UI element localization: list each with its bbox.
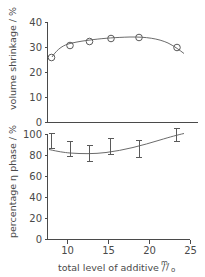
top-data-point [48, 54, 55, 61]
top-y-axis-title: volume shrinkage / % [7, 7, 18, 110]
bottom-x-axis-title-sub: o [171, 266, 175, 274]
bottom-x-axis-title-main: total level of additive / [58, 262, 166, 273]
top-trend-curve [52, 37, 184, 57]
bottom-y-axis-title: percentage η phase / % [7, 125, 18, 238]
bottom-ytick-label-40: 40 [29, 192, 42, 203]
bottom-xtick-label-10: 10 [61, 245, 74, 256]
top-ytick-label-10: 10 [29, 92, 42, 103]
top-data-point [174, 44, 181, 51]
figure-panel: 40 30 20 10 0 volume shrinkage / % [0, 0, 205, 277]
bottom-error-bars [49, 128, 180, 162]
bottom-x-axis-title: total level of additive / m / o [58, 259, 175, 274]
bottom-xtick-label-15: 15 [102, 245, 115, 256]
bottom-ytick-label-20: 20 [29, 213, 42, 224]
bottom-ytick-label-100: 100 [23, 129, 42, 140]
top-ytick-label-0: 0 [36, 117, 42, 128]
bottom-x-ticks [68, 240, 191, 244]
bottom-xtick-label-25: 25 [184, 245, 197, 256]
top-ytick-label-40: 40 [29, 17, 42, 28]
bottom-error-bar [136, 140, 142, 158]
bottom-trend-curve [49, 134, 184, 154]
bottom-x-axis-title-slash: / [166, 261, 170, 272]
bottom-ytick-label-60: 60 [29, 171, 42, 182]
bottom-panel: 100 80 60 40 20 0 10 15 20 25 percentage… [7, 125, 197, 274]
top-ytick-label-20: 20 [29, 67, 42, 78]
bottom-ytick-label-80: 80 [29, 150, 42, 161]
top-ytick-label-30: 30 [29, 42, 42, 53]
top-data-markers [48, 34, 180, 61]
chart-svg: 40 30 20 10 0 volume shrinkage / % [0, 0, 205, 277]
bottom-error-bar [49, 133, 55, 149]
bottom-ytick-label-0: 0 [36, 234, 42, 245]
bottom-error-bar [67, 141, 73, 157]
bottom-xtick-label-20: 20 [143, 245, 156, 256]
top-data-point [86, 38, 93, 45]
top-panel: 40 30 20 10 0 volume shrinkage / % [7, 7, 198, 128]
